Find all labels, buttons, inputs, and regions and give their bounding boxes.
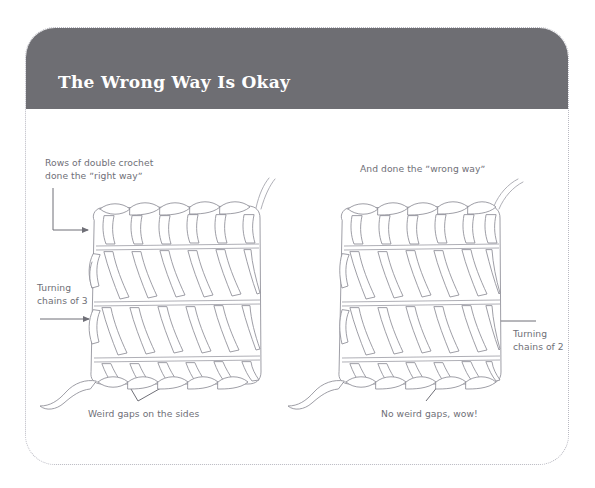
illustration-card: The Wrong Way Is Okay Rows of double cro… [25, 27, 569, 465]
right-swatch-drawing [26, 28, 569, 465]
page-root: The Wrong Way Is Okay Rows of double cro… [0, 0, 595, 488]
